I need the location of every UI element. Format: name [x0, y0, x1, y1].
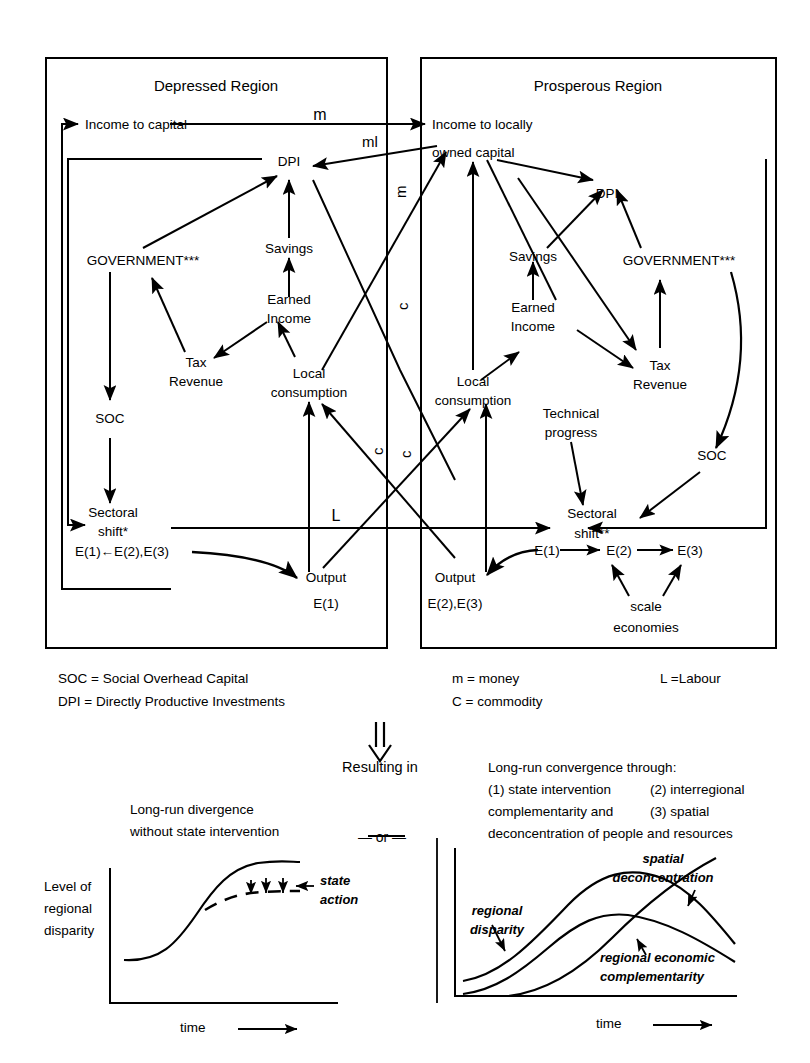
node-output-depressed-line2: E(1) — [313, 596, 339, 611]
left-chart-ylabel-3: disparity — [44, 923, 94, 938]
right-chart-caption-4: (3) spatial — [650, 804, 709, 819]
right-chart-curve-spatial-2: deconcentration — [612, 870, 713, 885]
left-chart-xlabel: time — [180, 1020, 206, 1035]
node-sectoral-shift-depressed-line2: shift* — [98, 524, 128, 539]
resulting-in-arrow — [369, 722, 391, 761]
node-government-prosperous: GOVERNMENT*** — [623, 253, 736, 268]
node-earned-income-prosperous-line2: Income — [511, 319, 555, 334]
node-local-consumption-prosperous-line1: Local — [457, 374, 489, 389]
node-tax-depressed-line2: Revenue — [169, 374, 223, 389]
node-income-to-capital: Income to capital — [85, 117, 187, 132]
node-scale-economies-line1: scale — [630, 599, 662, 614]
flow-label-c-left: c — [370, 448, 385, 456]
left-chart-annot-1: state — [320, 873, 350, 888]
node-dpi-depressed: DPI — [278, 154, 301, 169]
node-income-locally-line2: owned capital — [432, 145, 515, 160]
node-earned-income-prosperous-line1: Earned — [511, 300, 555, 315]
node-earned-income-depressed-line1: Earned — [267, 292, 311, 307]
flow-label-L: L — [332, 508, 341, 523]
node-tax-prosperous-line1: Tax — [649, 358, 670, 373]
diagram-canvas: Depressed Region Prosperous Region Incom… — [0, 0, 810, 1063]
node-income-locally-line1: Income to locally — [432, 117, 533, 132]
node-output-prosperous-line2: E(2),E(3) — [428, 596, 483, 611]
node-technical-progress-line1: Technical — [543, 406, 599, 421]
prosperous-region-title: Prosperous Region — [534, 78, 662, 93]
node-e1-prosperous: E(1) — [534, 543, 560, 558]
node-sectoral-shift-prosperous-line1: Sectoral — [567, 506, 617, 521]
depressed-region-title: Depressed Region — [154, 78, 278, 93]
node-soc-prosperous: SOC — [697, 448, 726, 463]
right-chart-caption-1: (1) state intervention — [488, 782, 611, 797]
node-output-prosperous-line1: Output — [435, 570, 476, 585]
legend-l: L =Labour — [660, 671, 721, 686]
node-sectors-depressed: E(1)←E(2),E(3) — [75, 544, 169, 559]
left-chart-ylabel-2: regional — [44, 901, 92, 916]
right-chart-curve-complementarity-1: regional economic — [600, 950, 715, 965]
flow-label-c-right: c — [398, 451, 413, 459]
node-savings-depressed: Savings — [265, 241, 313, 256]
node-local-consumption-depressed-line2: consumption — [271, 385, 348, 400]
node-scale-economies-line2: economies — [613, 620, 678, 635]
left-chart-annot-2: action — [320, 892, 358, 907]
node-local-consumption-prosperous-line2: consumption — [435, 393, 512, 408]
node-government-depressed: GOVERNMENT*** — [87, 253, 200, 268]
legend-soc: SOC = Social Overhead Capital — [58, 671, 248, 686]
node-sectoral-shift-depressed-line1: Sectoral — [88, 505, 138, 520]
node-tax-prosperous-line2: Revenue — [633, 377, 687, 392]
depressed-region-box — [46, 58, 387, 648]
left-chart-ylabel-1: Level of — [44, 879, 91, 894]
right-chart-caption-3: complementarity and — [488, 804, 613, 819]
node-e2-prosperous: E(2) — [606, 543, 632, 558]
flow-label-m-top: m — [313, 107, 326, 122]
node-soc-depressed: SOC — [95, 411, 124, 426]
flow-label-c-upper: c — [395, 303, 410, 311]
resulting-in-label: Resulting in — [342, 760, 418, 775]
right-chart-caption-5: deconcentration of people and resources — [488, 826, 733, 841]
node-e3-prosperous: E(3) — [677, 543, 703, 558]
node-local-consumption-depressed-line1: Local — [293, 366, 325, 381]
right-chart-curve-disparity-1: regional — [472, 903, 523, 918]
node-dpi-prosperous: DPI — [596, 186, 619, 201]
node-earned-income-depressed-line2: Income — [267, 311, 311, 326]
node-sectoral-shift-prosperous-line2: shift** — [574, 526, 609, 541]
flow-label-m-diagonal: m — [393, 186, 408, 199]
right-chart-xlabel: time — [596, 1016, 622, 1031]
left-chart-caption-1: Long-run divergence — [130, 802, 254, 817]
legend-m: m = money — [452, 671, 519, 686]
left-chart-caption-2: without state intervention — [130, 824, 279, 839]
or-divider-label: — or — — [358, 830, 406, 845]
node-technical-progress-line2: progress — [545, 425, 598, 440]
node-savings-prosperous: Savings — [509, 249, 557, 264]
right-chart-caption-2: (2) interregional — [650, 782, 745, 797]
right-chart-curve-complementarity-2: complementarity — [600, 969, 704, 984]
node-tax-depressed-line1: Tax — [185, 355, 206, 370]
flow-label-ml: ml — [362, 134, 378, 149]
right-chart-curve-disparity-2: disparity — [470, 922, 524, 937]
node-output-depressed-line1: Output — [306, 570, 347, 585]
legend-dpi: DPI = Directly Productive Investments — [58, 694, 285, 709]
right-chart-curve-spatial-1: spatial — [642, 851, 683, 866]
legend-c: C = commodity — [452, 694, 542, 709]
right-chart-caption-head: Long-run convergence through: — [488, 760, 676, 775]
